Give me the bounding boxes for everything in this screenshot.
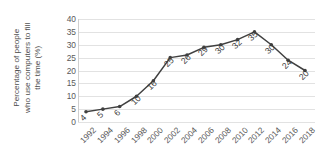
data-point-label: 10 — [128, 93, 142, 107]
data-point-label: 35 — [246, 29, 260, 43]
data-point-label: 29 — [196, 44, 210, 58]
data-point-label: 26 — [179, 52, 193, 66]
x-axis-tick-label: 2002 — [162, 125, 182, 145]
y-axis-tick-label: 15 — [67, 78, 76, 88]
y-axis-tick-label: 40 — [67, 14, 76, 24]
x-axis-tick-label: 2014 — [263, 125, 283, 145]
y-axis-tick-label: 30 — [67, 40, 76, 50]
data-point-label: 30 — [263, 42, 277, 56]
x-axis-tick-label: 2000 — [145, 125, 165, 145]
y-axis-tick-label: 35 — [67, 27, 76, 37]
data-point-label: 32 — [230, 37, 244, 51]
x-axis-tick-label: 2012 — [246, 125, 266, 145]
y-axis-tick-labels: 0510152025303540 — [56, 19, 76, 122]
y-axis-title: Percentage of people who use computers t… — [0, 0, 56, 135]
data-point-label: 20 — [297, 68, 311, 82]
x-axis-tick-label: 1996 — [112, 125, 132, 145]
data-point-label: 24 — [280, 57, 294, 71]
data-point-label: 5 — [95, 110, 105, 120]
x-axis-tick-label: 2008 — [213, 125, 233, 145]
line-chart: Percentage of people who use computers t… — [0, 0, 322, 165]
x-axis-tick-labels: 1992199419961998200020022004200620082010… — [78, 122, 315, 165]
x-axis-tick-label: 1998 — [128, 125, 148, 145]
x-axis-tick-label: 2010 — [229, 125, 249, 145]
data-point-label: 30 — [213, 42, 227, 56]
x-axis-tick-label: 2006 — [196, 125, 216, 145]
y-axis-tick-label: 10 — [67, 91, 76, 101]
y-axis-title-line-1: Percentage of people — [12, 22, 23, 112]
y-axis-title-line-3: the time (%) — [33, 22, 44, 112]
data-point-label: 16 — [145, 78, 159, 92]
y-axis-tick-label: 0 — [71, 117, 76, 127]
x-axis-tick-label: 1992 — [78, 125, 98, 145]
y-axis-title-line-2: who use computers to fill — [23, 22, 34, 112]
x-axis-tick-label: 2004 — [179, 125, 199, 145]
data-point-labels: 4561016252629303235302420 — [78, 19, 315, 122]
x-axis-tick-label: 2018 — [297, 125, 317, 145]
y-axis-tick-label: 5 — [71, 104, 76, 114]
data-point-label: 25 — [162, 55, 176, 69]
y-axis-tick-label: 25 — [67, 53, 76, 63]
x-axis-tick-label: 1994 — [95, 125, 115, 145]
x-axis-tick-label: 2016 — [280, 125, 300, 145]
y-axis-tick-label: 20 — [67, 66, 76, 76]
data-point-label: 6 — [112, 107, 122, 117]
